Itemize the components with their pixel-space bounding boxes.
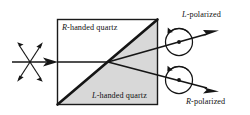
l-polarized-label-suffix: -polarized xyxy=(187,10,221,19)
l-polarization-center-dot xyxy=(177,40,181,44)
l-handed-quartz-label-suffix: -handed quartz xyxy=(97,91,147,100)
output-ray-lower-arrowhead xyxy=(203,87,219,93)
l-handed-quartz-label: L-handed quartz xyxy=(92,92,147,100)
quartz-polarization-figure: R-handed quartz L-handed quartz L-polari… xyxy=(0,0,250,115)
r-polarized-label-suffix: -polarized xyxy=(191,97,225,106)
r-handed-quartz-label-suffix: -handed quartz xyxy=(67,23,117,32)
output-ray-upper-arrowhead xyxy=(202,30,219,36)
r-handed-quartz-label: R-handed quartz xyxy=(62,24,117,32)
r-polarized-output-label: R-polarized xyxy=(186,98,225,106)
r-polarization-center-dot xyxy=(177,78,181,82)
l-polarized-output-label: L-polarized xyxy=(182,11,221,19)
